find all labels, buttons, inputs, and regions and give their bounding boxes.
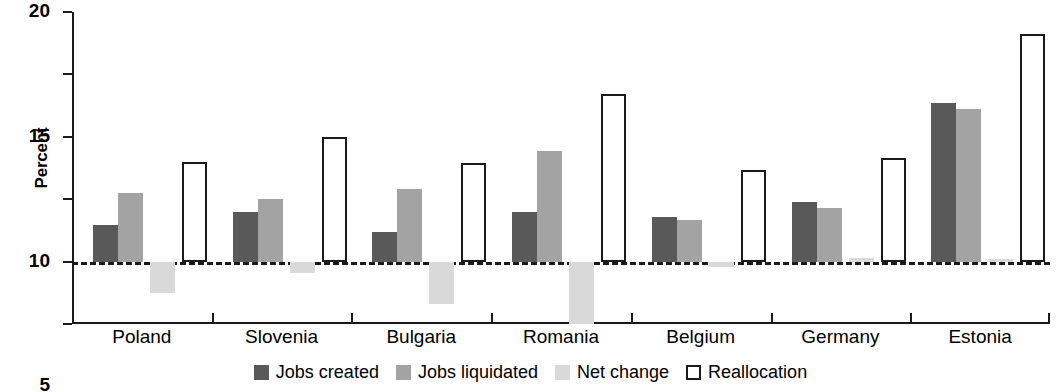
bar-jobs-created bbox=[652, 217, 677, 262]
bar-jobs-created bbox=[792, 202, 817, 262]
bar-reallocation bbox=[182, 162, 207, 262]
x-group-separator-tick bbox=[212, 313, 214, 324]
bar-reallocation bbox=[881, 158, 906, 262]
bar-jobs-created bbox=[233, 212, 258, 262]
bar-jobs-liquidated bbox=[118, 193, 143, 262]
x-tick-label-germany: Germany bbox=[771, 326, 911, 348]
bar-group bbox=[771, 12, 911, 324]
y-tick-mark: -5 bbox=[63, 323, 72, 325]
bar-reallocation bbox=[461, 163, 486, 262]
y-tick-label: 15 bbox=[29, 125, 50, 147]
x-group-separator-tick bbox=[491, 313, 493, 324]
x-tick-label-estonia: Estonia bbox=[910, 326, 1050, 348]
legend-item-jobs-created[interactable]: Jobs created bbox=[254, 362, 379, 383]
bar-jobs-liquidated bbox=[817, 208, 842, 262]
chart-legend: Jobs createdJobs liquidatedNet changeRea… bbox=[0, 362, 1061, 383]
bar-jobs-created bbox=[512, 212, 537, 262]
y-tick-mark: 5 bbox=[63, 198, 72, 200]
legend-item-reallocation[interactable]: Reallocation bbox=[686, 362, 807, 383]
bar-jobs-liquidated bbox=[258, 199, 283, 261]
x-tick-label-bulgaria: Bulgaria bbox=[351, 326, 491, 348]
bar-group bbox=[351, 12, 491, 324]
x-group-separator-tick bbox=[351, 313, 353, 324]
bar-group bbox=[910, 12, 1050, 324]
bar-group bbox=[212, 12, 352, 324]
y-tick-mark: 15 bbox=[63, 73, 72, 75]
x-tick-label-belgium: Belgium bbox=[631, 326, 771, 348]
y-tick-mark: 20 bbox=[63, 11, 72, 13]
bar-net-change bbox=[709, 262, 734, 267]
legend-label: Reallocation bbox=[708, 362, 807, 383]
x-tick-label-poland: Poland bbox=[72, 326, 212, 348]
y-tick-mark: 10 bbox=[63, 136, 72, 138]
bar-group bbox=[491, 12, 631, 324]
bar-jobs-liquidated bbox=[537, 151, 562, 262]
bar-reallocation bbox=[322, 137, 347, 262]
bar-net-change bbox=[569, 262, 594, 324]
bar-net-change bbox=[988, 259, 1013, 261]
legend-item-net-change[interactable]: Net change bbox=[555, 362, 669, 383]
y-tick-label: 10 bbox=[29, 250, 50, 272]
bar-jobs-created bbox=[372, 232, 397, 262]
legend-swatch-icon bbox=[686, 365, 701, 380]
x-tick-label-slovenia: Slovenia bbox=[212, 326, 352, 348]
x-group-separator-tick bbox=[771, 313, 773, 324]
bar-net-change bbox=[429, 262, 454, 304]
bar-reallocation bbox=[741, 170, 766, 261]
legend-label: Net change bbox=[577, 362, 669, 383]
bar-jobs-liquidated bbox=[677, 220, 702, 261]
bar-reallocation bbox=[601, 94, 626, 261]
bar-jobs-liquidated bbox=[397, 189, 422, 261]
legend-label: Jobs liquidated bbox=[418, 362, 538, 383]
x-tick-label-romania: Romania bbox=[491, 326, 631, 348]
job-reallocation-bar-chart: Percent -505101520 PolandSloveniaBulgari… bbox=[0, 0, 1061, 392]
legend-swatch-icon bbox=[396, 365, 411, 380]
bar-group bbox=[631, 12, 771, 324]
legend-item-jobs-liquidated[interactable]: Jobs liquidated bbox=[396, 362, 538, 383]
legend-label: Jobs created bbox=[276, 362, 379, 383]
bar-group bbox=[72, 12, 212, 324]
x-group-separator-tick bbox=[910, 313, 912, 324]
legend-swatch-icon bbox=[254, 365, 269, 380]
y-axis-title: Percent bbox=[32, 98, 52, 218]
bar-net-change bbox=[290, 262, 315, 273]
bar-net-change bbox=[849, 258, 874, 262]
legend-swatch-icon bbox=[555, 365, 570, 380]
bar-jobs-created bbox=[93, 225, 118, 261]
y-tick-label: 20 bbox=[29, 0, 50, 22]
x-group-separator-tick bbox=[1048, 313, 1050, 324]
x-group-separator-tick bbox=[631, 313, 633, 324]
bar-jobs-liquidated bbox=[956, 109, 981, 261]
plot-area: -505101520 bbox=[72, 12, 1050, 324]
bar-jobs-created bbox=[931, 103, 956, 261]
y-tick-mark: 0 bbox=[63, 261, 72, 263]
bar-net-change bbox=[150, 262, 175, 293]
bar-reallocation bbox=[1020, 34, 1045, 261]
